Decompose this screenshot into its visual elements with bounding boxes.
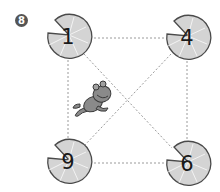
diagram-canvas: 8 1 4 9 6: [0, 0, 220, 192]
pad-label-9: 9: [53, 149, 83, 175]
pad-label-1: 1: [53, 24, 83, 50]
pad-label-6: 6: [172, 151, 202, 177]
frog-icon: [73, 81, 113, 116]
problem-number-badge: 8: [15, 14, 28, 27]
pad-label-4: 4: [172, 25, 202, 51]
